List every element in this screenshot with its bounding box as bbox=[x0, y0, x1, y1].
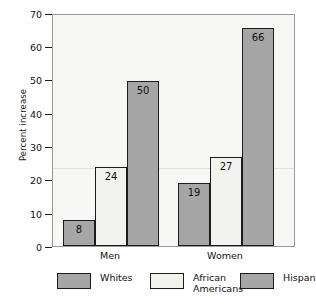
bar-chart: Percent increase 70 60 50 40 30 20 10 0 bbox=[0, 0, 316, 307]
legend-swatch-whites bbox=[57, 273, 91, 289]
bar-value-men-hispanics: 50 bbox=[128, 85, 158, 96]
y-axis-tick: 60 bbox=[18, 41, 52, 53]
y-axis-tick: 50 bbox=[18, 74, 52, 86]
legend-item-african-americans: African Americans bbox=[150, 272, 243, 294]
plot-inner: 8 24 50 19 27 66 bbox=[53, 15, 294, 246]
y-axis-tick: 70 bbox=[18, 8, 52, 20]
y-axis-tick-label: 50 bbox=[18, 75, 42, 87]
y-axis-tick-label: 40 bbox=[18, 109, 42, 121]
y-axis-ticks: 70 60 50 40 30 20 10 0 bbox=[0, 0, 52, 307]
y-axis-tick-label: 30 bbox=[18, 142, 42, 154]
y-axis-tick-dash bbox=[45, 180, 52, 181]
y-axis-tick-label: 0 bbox=[18, 242, 42, 254]
legend-label-whites: Whites bbox=[100, 272, 133, 283]
y-axis-tick-dash bbox=[45, 247, 52, 248]
x-axis-label-women: Women bbox=[177, 250, 273, 261]
legend-label-african-americans: African Americans bbox=[193, 272, 243, 294]
bar-value-men-whites: 8 bbox=[64, 224, 94, 235]
bar-women-african-americans: 27 bbox=[210, 157, 242, 246]
bar-value-women-whites: 19 bbox=[179, 187, 209, 198]
bar-men-african-americans: 24 bbox=[95, 167, 127, 246]
y-axis-tick-label: 10 bbox=[18, 209, 42, 221]
y-axis-tick-dash bbox=[45, 147, 52, 148]
bar-group-women: 19 27 66 bbox=[178, 15, 274, 246]
y-axis-tick-label: 60 bbox=[18, 42, 42, 54]
y-axis-tick-dash bbox=[45, 47, 52, 48]
y-axis-tick: 30 bbox=[18, 141, 52, 153]
legend-item-whites: Whites bbox=[57, 272, 133, 289]
y-axis-tick-dash bbox=[45, 14, 52, 15]
x-axis-label-men: Men bbox=[62, 250, 158, 261]
bar-men-whites: 8 bbox=[63, 220, 95, 246]
y-axis-tick-dash bbox=[45, 80, 52, 81]
legend: Whites African Americans Hispanics bbox=[0, 272, 316, 307]
y-axis-tick-dash bbox=[45, 114, 52, 115]
y-axis-tick-dash bbox=[45, 214, 52, 215]
y-axis-tick: 40 bbox=[18, 108, 52, 120]
legend-swatch-african-americans bbox=[150, 273, 184, 289]
bar-women-hispanics: 66 bbox=[242, 28, 274, 246]
y-axis-tick: 20 bbox=[18, 174, 52, 186]
legend-item-hispanics: Hispanics bbox=[240, 272, 316, 289]
legend-label-hispanics: Hispanics bbox=[283, 272, 316, 283]
y-axis-tick-label: 20 bbox=[18, 175, 42, 187]
y-axis-tick-label: 70 bbox=[18, 9, 42, 21]
bar-value-men-african-americans: 24 bbox=[96, 171, 126, 182]
bar-value-women-hispanics: 66 bbox=[243, 32, 273, 43]
y-axis-tick: 10 bbox=[18, 208, 52, 220]
legend-swatch-hispanics bbox=[240, 273, 274, 289]
bar-group-men: 8 24 50 bbox=[63, 15, 159, 246]
bar-value-women-african-americans: 27 bbox=[211, 161, 241, 172]
plot-area: 8 24 50 19 27 66 bbox=[52, 14, 295, 247]
y-axis-tick: 0 bbox=[18, 241, 52, 253]
bar-women-whites: 19 bbox=[178, 183, 210, 246]
bar-men-hispanics: 50 bbox=[127, 81, 159, 246]
